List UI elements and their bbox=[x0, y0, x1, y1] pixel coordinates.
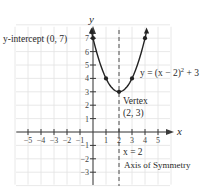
equation-base: y = (x − 2) bbox=[140, 68, 181, 79]
y-intercept-annotation: y-intercept (0, 7) bbox=[3, 34, 67, 45]
y-tick-label: −3 bbox=[80, 168, 89, 177]
aos-equation: x = 2 bbox=[123, 147, 143, 157]
x-tick-label: −4 bbox=[37, 136, 46, 145]
data-point bbox=[130, 76, 134, 80]
x-tick-label: 5 bbox=[156, 136, 160, 145]
x-tick-label: −5 bbox=[24, 136, 33, 145]
x-tick-label: 3 bbox=[130, 136, 134, 145]
data-point bbox=[117, 90, 121, 94]
y-tick-label: 7 bbox=[85, 34, 89, 43]
y-tick-label: 2 bbox=[85, 101, 89, 110]
parabola-graph: −5−4−3−2−112345−3−2−11234567 y x y-inter… bbox=[0, 0, 224, 192]
y-tick-label: 6 bbox=[85, 48, 89, 57]
equation-annotation: y = (x − 2)2 + 3 bbox=[140, 66, 199, 79]
x-axis-arrow bbox=[166, 129, 174, 135]
y-tick-label: 3 bbox=[85, 88, 89, 97]
aos-label: Axis of Symmetry bbox=[124, 160, 191, 170]
x-tick-label: −2 bbox=[63, 136, 72, 145]
y-tick-label: 4 bbox=[85, 74, 89, 83]
y-tick-label: 1 bbox=[85, 115, 89, 124]
x-tick-label: −3 bbox=[50, 136, 59, 145]
vertex-label: Vertex bbox=[123, 96, 148, 106]
vertex-coords: (2, 3) bbox=[123, 108, 144, 119]
equation-constant: + 3 bbox=[184, 68, 199, 78]
y-tick-label: −1 bbox=[80, 141, 89, 150]
data-point bbox=[91, 36, 95, 40]
x-tick-label: 4 bbox=[143, 136, 147, 145]
x-axis-label: x bbox=[176, 125, 182, 137]
y-axis-label: y bbox=[88, 13, 94, 25]
y-tick-label: −2 bbox=[80, 155, 89, 164]
y-tick-label: 5 bbox=[85, 61, 89, 70]
data-point bbox=[104, 76, 108, 80]
x-tick-label: 1 bbox=[104, 136, 108, 145]
data-point bbox=[143, 36, 147, 40]
